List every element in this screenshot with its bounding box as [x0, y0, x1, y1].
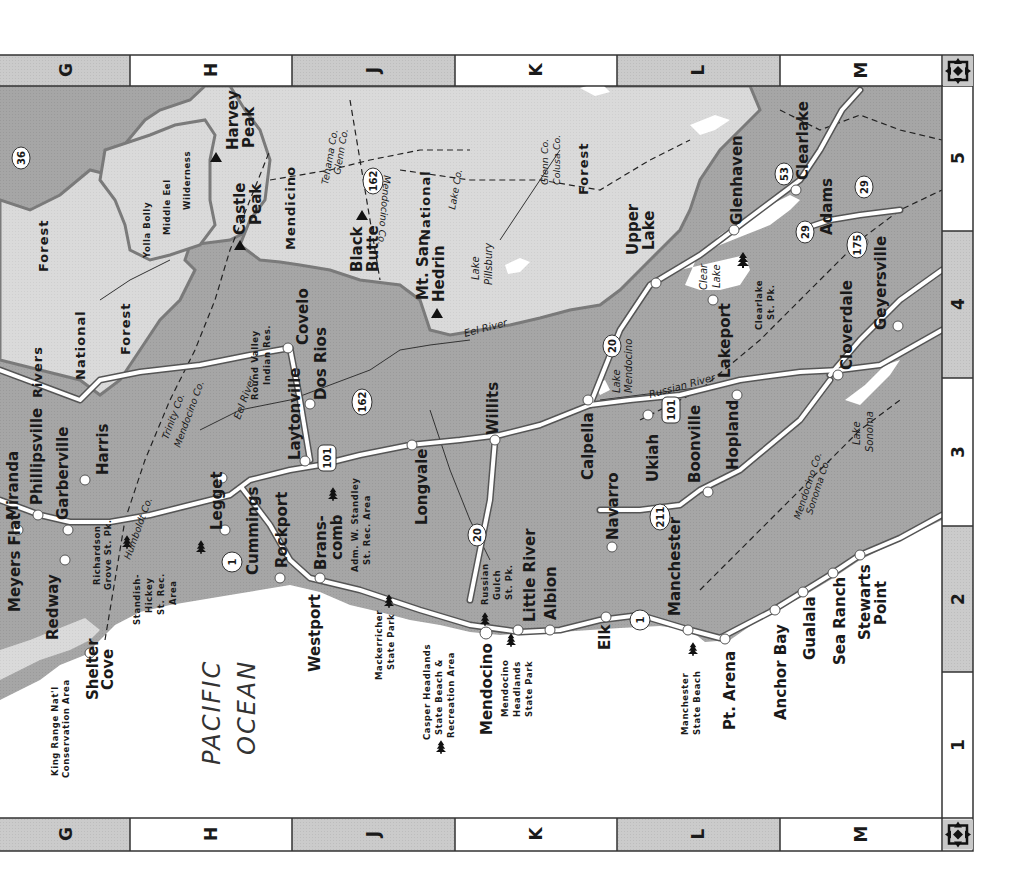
- svg-text:Indian Res.: Indian Res.: [262, 325, 272, 385]
- svg-text:Hopland: Hopland: [724, 400, 742, 470]
- svg-text:Sonoma: Sonoma: [864, 411, 875, 452]
- svg-text:Mackerricher: Mackerricher: [374, 610, 384, 680]
- svg-text:Middle Eel: Middle Eel: [162, 179, 172, 235]
- svg-text:Cove: Cove: [99, 649, 117, 690]
- svg-text:Lake: Lake: [640, 211, 658, 250]
- svg-text:29: 29: [800, 225, 811, 239]
- svg-text:State Beach &: State Beach &: [434, 659, 444, 735]
- svg-text:Westport: Westport: [306, 594, 324, 672]
- svg-text:State Beach: State Beach: [692, 671, 702, 735]
- svg-text:National: National: [73, 310, 88, 380]
- route-20-shield: 20: [468, 524, 486, 546]
- svg-text:Clearlake: Clearlake: [794, 101, 812, 180]
- svg-text:Adm. W. Standley: Adm. W. Standley: [350, 478, 360, 572]
- route-175-shield: 175: [847, 232, 867, 258]
- svg-text:Clearlake: Clearlake: [754, 280, 764, 330]
- svg-text:Russian: Russian: [480, 563, 490, 605]
- svg-text:Garberville: Garberville: [54, 426, 72, 520]
- svg-text:Colusa Co.: Colusa Co.: [551, 135, 562, 185]
- svg-text:Navarro: Navarro: [604, 472, 622, 540]
- svg-text:29: 29: [859, 180, 870, 194]
- svg-text:Elk: Elk: [596, 624, 614, 650]
- svg-text:Standish-: Standish-: [132, 574, 142, 625]
- svg-text:State Park: State Park: [524, 661, 534, 717]
- svg-text:1: 1: [227, 558, 238, 565]
- svg-text:H: H: [201, 63, 221, 77]
- road-map: 36 1 1 101 101 162 162 20 20 211 53 29 2…: [0, 0, 1020, 892]
- svg-text:National: National: [418, 170, 433, 240]
- svg-text:20: 20: [607, 339, 618, 353]
- svg-text:Area: Area: [168, 580, 178, 605]
- svg-text:Lakeport: Lakeport: [716, 303, 734, 378]
- svg-text:Phillipsville: Phillipsville: [28, 408, 46, 505]
- svg-text:Mendocino: Mendocino: [623, 339, 634, 393]
- route-101-shield: 101: [662, 397, 680, 423]
- svg-text:Lake: Lake: [470, 256, 481, 280]
- svg-text:Longvale: Longvale: [413, 449, 431, 526]
- svg-text:53: 53: [779, 167, 790, 181]
- svg-text:Sea Ranch: Sea Ranch: [831, 577, 849, 665]
- svg-text:Albion: Albion: [542, 566, 560, 620]
- svg-text:4: 4: [948, 298, 968, 310]
- svg-text:Hedrin: Hedrin: [430, 245, 448, 302]
- svg-text:St. Rec. Area: St. Rec. Area: [362, 495, 372, 565]
- svg-text:Glenhaven: Glenhaven: [728, 135, 746, 225]
- svg-text:Forest: Forest: [118, 303, 133, 355]
- route-1-shield: 1: [222, 552, 242, 572]
- svg-text:Mendicino: Mendicino: [283, 166, 298, 250]
- svg-text:Forest: Forest: [36, 220, 51, 272]
- route-29-shield: 29: [796, 221, 814, 243]
- svg-text:J: J: [363, 67, 383, 74]
- svg-text:Anchor Bay: Anchor Bay: [772, 624, 790, 720]
- svg-text:Point: Point: [872, 581, 890, 625]
- svg-text:Calpella: Calpella: [579, 412, 597, 480]
- svg-text:Boonville: Boonville: [686, 405, 704, 483]
- svg-text:St. Pk.: St. Pk.: [766, 284, 776, 320]
- svg-text:Peak: Peak: [247, 183, 265, 225]
- svg-text:Miranda: Miranda: [4, 451, 22, 520]
- svg-text:King Range Nat'l: King Range Nat'l: [50, 686, 60, 776]
- compass-rose-icon: [943, 820, 973, 850]
- svg-text:211: 211: [655, 507, 666, 528]
- route-36-shield: 36: [12, 147, 30, 169]
- svg-text:Yolla Bolly: Yolla Bolly: [142, 202, 152, 259]
- svg-text:2: 2: [948, 593, 968, 605]
- svg-text:Lake: Lake: [611, 369, 622, 393]
- svg-text:Hickey: Hickey: [144, 578, 154, 613]
- svg-text:Manchester: Manchester: [666, 516, 684, 616]
- svg-text:3: 3: [948, 446, 968, 458]
- svg-text:Conservation Area: Conservation Area: [61, 679, 71, 778]
- svg-text:Ukiah: Ukiah: [644, 434, 662, 482]
- svg-text:Richardson: Richardson: [92, 525, 102, 585]
- svg-text:G: G: [56, 63, 76, 77]
- svg-text:Grove St. Pk.: Grove St. Pk.: [103, 519, 113, 590]
- svg-text:Headlands: Headlands: [512, 661, 522, 717]
- route-53-shield: 53: [775, 163, 793, 185]
- svg-text:PACIFIC: PACIFIC: [198, 660, 226, 765]
- svg-text:Adams: Adams: [818, 178, 836, 235]
- svg-text:Little River: Little River: [521, 528, 539, 622]
- svg-text:Glenn Co.: Glenn Co.: [539, 139, 550, 185]
- route-1-shield: 1: [630, 610, 650, 630]
- svg-text:Manchester: Manchester: [680, 673, 690, 735]
- svg-text:H: H: [201, 827, 221, 841]
- svg-text:Geyersville: Geyersville: [872, 236, 890, 330]
- svg-text:OCEAN: OCEAN: [233, 660, 261, 755]
- svg-text:Gualala: Gualala: [801, 596, 819, 660]
- svg-text:Pillsbury: Pillsbury: [483, 242, 494, 285]
- svg-text:Casper Headlands: Casper Headlands: [422, 644, 432, 740]
- svg-text:Rivers: Rivers: [30, 346, 45, 398]
- compass-rose-icon: [943, 56, 973, 86]
- svg-text:175: 175: [852, 235, 863, 256]
- svg-text:St. Pk.: St. Pk.: [504, 564, 514, 600]
- svg-text:L: L: [688, 828, 708, 839]
- svg-text:36: 36: [16, 151, 27, 165]
- svg-text:Laytonville: Laytonville: [286, 367, 304, 460]
- svg-text:State Park: State Park: [386, 614, 396, 670]
- svg-text:1: 1: [948, 739, 968, 751]
- svg-text:L: L: [688, 64, 708, 75]
- svg-text:Legget: Legget: [208, 471, 226, 530]
- svg-text:162: 162: [357, 392, 368, 413]
- svg-text:Rockport: Rockport: [273, 492, 291, 568]
- svg-text:St. Rec.: St. Rec.: [156, 573, 166, 615]
